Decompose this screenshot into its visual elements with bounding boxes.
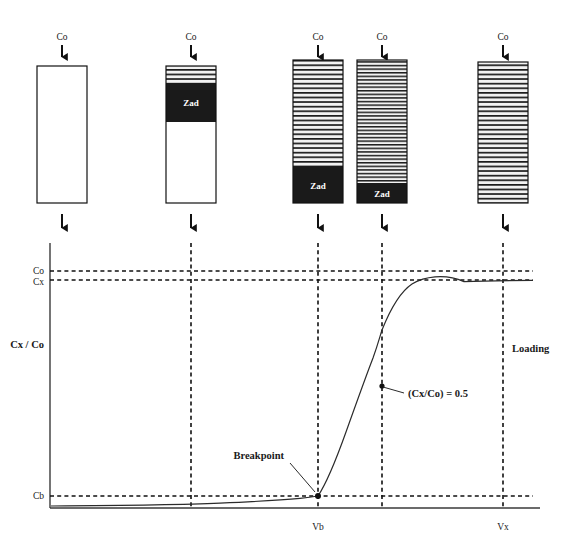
figure-canvas: Co Co Zad Co Zad [0,0,572,543]
x-tick-label-vb: Vb [312,522,324,532]
column-5-saturated-zone [478,62,528,203]
column-3-zone-label: Zad [310,181,326,191]
column-2-fresh-zone [166,122,216,203]
column-3-inlet-label: Co [312,32,323,42]
column-4-saturated-zone [357,60,407,183]
y-tick-label-co: Co [33,266,44,276]
column-3: Co Zad [293,32,343,228]
column-4-zone-label: Zad [374,189,390,199]
column-5-inlet-label: Co [497,32,508,42]
half-saturation-marker [379,383,384,388]
chart: Co Cx Cb Cx / Co Vb Vx Breakpoint (Cx/Co… [10,243,550,532]
column-1-body [37,66,87,203]
half-saturation-label: (Cx/Co) = 0.5 [408,388,468,400]
breakthrough-diagram: Co Co Zad Co Zad [0,0,572,543]
column-4-inlet-label: Co [376,32,387,42]
column-1: Co [37,32,87,228]
loading-label: Loading [512,343,550,354]
x-tick-label-vx: Vx [497,522,509,532]
column-2-zone-label: Zad [183,98,199,108]
column-2-saturated-zone [166,66,216,83]
column-4: Co Zad [357,32,407,228]
column-5: Co [478,32,528,228]
y-tick-label-cx: Cx [33,277,44,287]
column-1-inlet-label: Co [56,32,67,42]
breakpoint-label: Breakpoint [233,450,284,461]
breakpoint-marker [315,493,321,499]
column-2-inlet-label: Co [185,32,196,42]
column-3-saturated-zone [293,60,343,166]
column-2: Co Zad [166,32,216,228]
breakpoint-leader [290,463,315,492]
y-axis-title: Cx / Co [10,339,44,350]
y-tick-label-cb: Cb [33,491,44,501]
half-saturation-leader [383,387,404,393]
